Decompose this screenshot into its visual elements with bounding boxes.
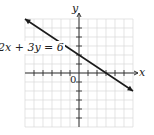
coordinate-plane [0,0,154,135]
y-axis-label: y [72,2,78,15]
x-axis-label: x [139,66,145,79]
equation-label: 2x + 3y = 6 [0,41,65,54]
origin-label: 0 [70,74,76,85]
